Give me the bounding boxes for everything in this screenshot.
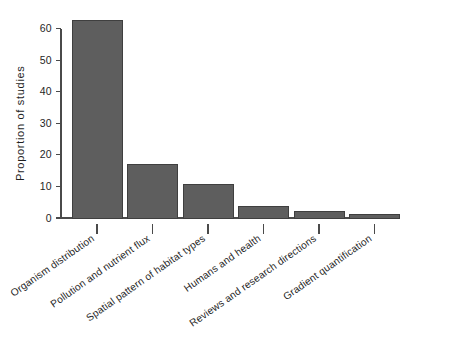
y-tick-label: 50 — [40, 54, 52, 66]
bar — [294, 211, 344, 218]
bar — [128, 165, 178, 218]
bar-series — [72, 21, 400, 218]
category-label: Spatial pattern of habitat types — [84, 233, 207, 324]
y-tick-label: 60 — [40, 22, 52, 34]
x-axis — [61, 218, 400, 234]
y-tick-label: 10 — [40, 180, 52, 192]
category-labels: Organism distributionPollution and nutri… — [8, 233, 373, 329]
y-axis-title-text: Proportion of studies — [14, 65, 26, 181]
y-tick-label: 30 — [40, 117, 52, 129]
y-tick-label: 0 — [46, 212, 52, 224]
bar — [183, 185, 233, 218]
bar — [350, 214, 400, 218]
y-axis-title: Proportion of studies — [14, 65, 26, 181]
bar — [72, 21, 122, 218]
y-axis: 0102030405060 — [40, 22, 61, 224]
y-tick-label: 40 — [40, 85, 52, 97]
y-tick-label: 20 — [40, 148, 52, 160]
chart-canvas: 0102030405060 Organism distributionPollu… — [0, 0, 469, 338]
category-label: Pollution and nutrient flux — [48, 233, 151, 310]
bar-chart-figure: 0102030405060 Organism distributionPollu… — [0, 0, 469, 338]
bar — [239, 207, 289, 218]
category-label: Gradient quantification — [281, 233, 374, 302]
